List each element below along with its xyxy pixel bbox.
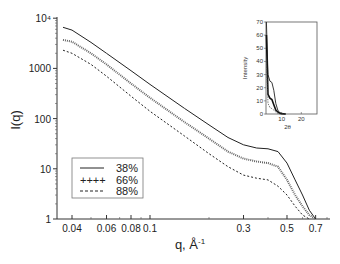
inset-y-tick-label: 30: [256, 72, 263, 78]
inset-x-tick-label: 20: [298, 116, 305, 122]
y-tick-label: 10⁴: [36, 13, 51, 24]
inset-y-title: Intensity: [242, 57, 248, 79]
x-axis-title-sup: -1: [198, 237, 206, 246]
legend: ++++38%66%88%: [72, 158, 143, 198]
x-tick-label: 0.04: [62, 223, 82, 234]
x-tick-label: 0.5: [280, 223, 294, 234]
y-tick-label: 1000: [29, 63, 52, 74]
inset-y-tick-label: 70: [256, 19, 263, 25]
x-axis-title-main: q, Å: [175, 237, 198, 252]
inset-y-tick-label: 0: [260, 111, 264, 117]
x-tick-label: 0.1: [143, 223, 157, 234]
inset-frame: [266, 22, 317, 114]
inset-y-tick-label: 40: [256, 58, 263, 64]
legend-symbol-plus: ++++: [80, 174, 106, 186]
inset-y-tick-label: 50: [256, 45, 263, 51]
y-axis-title: I(q): [8, 110, 23, 130]
inset-x-tick-label: 10: [278, 116, 285, 122]
inset-y-tick-label: 10: [256, 98, 263, 104]
y-tick-label: 1: [45, 214, 51, 225]
legend-label: 38%: [116, 162, 138, 174]
x-tick-label: 0.7: [309, 223, 323, 234]
inset-y-tick-label: 20: [256, 85, 263, 91]
x-tick-label: 0.06: [97, 223, 117, 234]
inset-x-title: 2θ: [284, 124, 291, 130]
x-axis-title: q, Å-1: [175, 237, 206, 252]
saxs-chart: 110100100010⁴0.040.060.080.10.30.50.7 ++…: [0, 0, 340, 264]
y-tick-label: 100: [34, 114, 51, 125]
x-tick-label: 0.08: [121, 223, 141, 234]
y-tick-label: 10: [40, 164, 52, 175]
inset-y-tick-label: 60: [256, 32, 263, 38]
x-tick-label: 0.3: [237, 223, 251, 234]
inset-plot: 01020304050607010202θIntensity: [242, 19, 317, 130]
legend-label: 88%: [116, 185, 138, 197]
